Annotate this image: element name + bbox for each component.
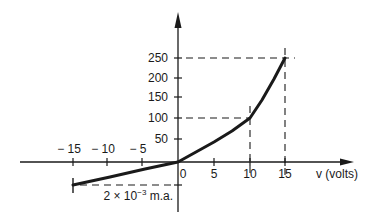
- neg-current-base: 2 × 10: [104, 189, 138, 203]
- x-label-10: 10: [243, 167, 257, 181]
- y-label-150: 150: [148, 90, 168, 104]
- x-axis-label: v (volts): [316, 167, 358, 181]
- y-label-50: 50: [155, 132, 169, 146]
- y-label-250: 250: [148, 51, 168, 65]
- x-label-0: 0: [180, 167, 187, 181]
- iv-curve: [73, 58, 285, 185]
- y-label-100: 100: [148, 111, 168, 125]
- y-tick-labels: 250 200 150 100 50: [148, 51, 168, 146]
- iv-characteristic-diagram: 250 200 150 100 50 − 15 − 10 − 5 0 5 10 …: [0, 0, 373, 217]
- x-label-15: 15: [278, 167, 292, 181]
- x-tick-labels-positive: 0 5 10 15: [180, 167, 292, 181]
- y-axis-arrow-icon: [175, 12, 182, 28]
- neg-current-annotation: 2 × 10−3 m.a.: [104, 188, 174, 203]
- y-label-200: 200: [148, 71, 168, 85]
- x-axis-arrow-icon: [340, 159, 354, 166]
- guide-lines: [80, 48, 295, 185]
- x-label-neg10: − 10: [91, 142, 115, 156]
- x-label-neg15: − 15: [57, 142, 81, 156]
- x-label-neg5: − 5: [129, 142, 146, 156]
- x-label-5: 5: [211, 167, 218, 181]
- x-tick-labels-negative: − 15 − 10 − 5: [57, 142, 147, 156]
- neg-current-unit: m.a.: [146, 189, 173, 203]
- axes: [20, 12, 354, 212]
